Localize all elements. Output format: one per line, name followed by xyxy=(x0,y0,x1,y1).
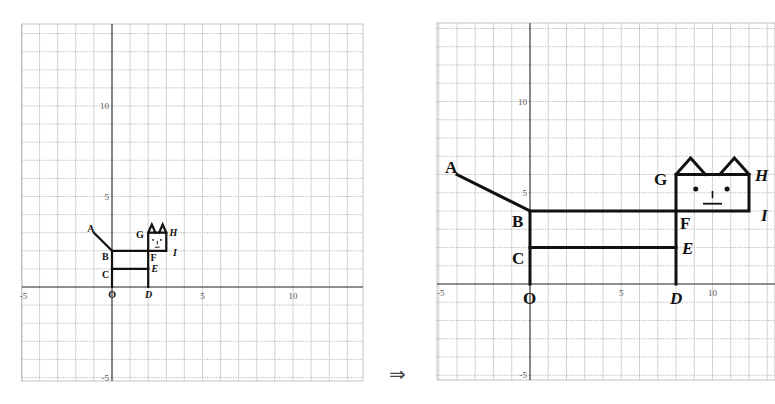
original-graph: -5510105-5ABCODEFGHI xyxy=(20,24,363,383)
point-label-g: G xyxy=(136,229,144,240)
point-label-h: H xyxy=(169,227,179,238)
point-label-c: C xyxy=(512,249,524,268)
diagram-canvas: -5510105-5ABCODEFGHI-5510105-5ABCODEFGHI xyxy=(0,0,775,404)
point-label-e: E xyxy=(151,263,159,274)
point-label-o: O xyxy=(108,289,116,300)
tick-label: 10 xyxy=(708,288,718,298)
point-label-o: O xyxy=(523,289,536,308)
tick-label: -5 xyxy=(520,370,528,380)
point-label-a: A xyxy=(87,223,95,234)
tick-label: -5 xyxy=(102,373,110,383)
tick-label: 10 xyxy=(100,101,110,111)
point-label-e: E xyxy=(681,239,693,258)
point-label-c: C xyxy=(102,269,109,280)
tick-label: -5 xyxy=(437,288,445,298)
tick-label: 5 xyxy=(619,288,624,298)
tick-label: 5 xyxy=(523,188,528,198)
point-label-b: B xyxy=(512,212,523,231)
point-label-h: H xyxy=(754,166,769,185)
point-label-d: D xyxy=(144,289,152,300)
point-label-i: I xyxy=(172,247,178,258)
transform-arrow: ⇒ xyxy=(389,362,406,386)
tick-label: 5 xyxy=(200,291,205,301)
point-label-f: F xyxy=(680,214,690,233)
transformed-graph: -5510105-5ABCODEFGHI xyxy=(437,23,775,380)
tick-label: 5 xyxy=(105,192,110,202)
point-label-a: A xyxy=(445,158,458,177)
point-label-i: I xyxy=(760,206,769,225)
tick-label: -5 xyxy=(20,291,28,301)
point-label-b: B xyxy=(102,251,109,262)
point-label-d: D xyxy=(669,289,682,308)
tick-label: 10 xyxy=(289,291,299,301)
tick-label: 10 xyxy=(518,97,528,107)
point-label-g: G xyxy=(654,170,667,189)
point-label-f: F xyxy=(150,252,156,263)
